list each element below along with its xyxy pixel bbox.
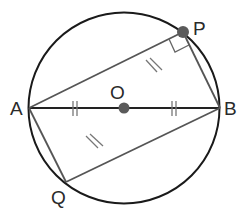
segment-AQ xyxy=(29,108,66,182)
point-O xyxy=(119,103,130,114)
slash-marks-AP xyxy=(146,58,162,72)
label-B: B xyxy=(224,98,237,119)
slash-marks-QB xyxy=(86,134,103,148)
label-P: P xyxy=(193,18,206,39)
geometry-diagram: A B O P Q xyxy=(0,0,252,211)
point-P xyxy=(177,26,189,38)
segment-AP xyxy=(29,32,183,108)
right-angle-marker xyxy=(169,39,189,52)
label-Q: Q xyxy=(51,187,66,208)
label-A: A xyxy=(10,98,23,119)
label-O: O xyxy=(110,82,125,103)
segment-PB xyxy=(183,32,220,108)
